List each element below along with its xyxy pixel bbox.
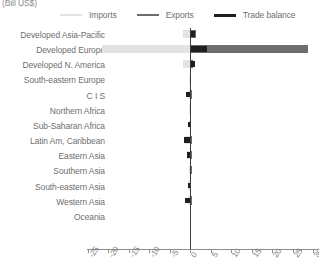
chart-row: South-eastern Europe (0, 73, 319, 88)
x-tick-label: 0 (189, 251, 199, 260)
chart-row: Southern Asia (0, 164, 319, 179)
category-label: Developed Asia-Pacific (0, 28, 105, 43)
legend-item-trade-balance[interactable]: Trade balance (214, 10, 296, 20)
chart-row: Northern Africa (0, 104, 319, 119)
bar-trade-balance (190, 46, 207, 52)
x-tick-label: -10 (148, 245, 162, 259)
category-label: South-eastern Europe (0, 73, 105, 88)
legend-swatch-trade-balance (214, 14, 236, 17)
trade-balance-chart: (Bill US$) Imports Exports Trade balance… (0, 0, 319, 276)
category-label: Latin Am, Caribbean (0, 134, 105, 149)
chart-row: Latin Am, Caribbean (0, 134, 319, 149)
legend-item-imports[interactable]: Imports (60, 10, 117, 20)
bar-imports (183, 30, 190, 39)
bar-exports (190, 45, 308, 54)
category-label: South-eastern Asia (0, 180, 105, 195)
legend-label-trade-balance: Trade balance (243, 10, 296, 20)
x-tick-label: -15 (128, 245, 142, 259)
category-label: Western Asia (0, 195, 105, 210)
chart-row: Developed Asia-Pacific (0, 28, 319, 43)
chart-row: Oceania (0, 210, 319, 225)
legend-swatch-imports (60, 14, 82, 16)
chart-row: Developed N. America (0, 58, 319, 73)
chart-legend: Imports Exports Trade balance (60, 9, 296, 21)
x-tick-label: -25 (87, 245, 101, 259)
category-label: Oceania (0, 210, 105, 225)
legend-swatch-exports (137, 14, 159, 16)
bar-imports (102, 45, 190, 54)
legend-label-imports: Imports (89, 10, 117, 20)
category-label: Sub-Saharan Africa (0, 119, 105, 134)
zero-axis-line (190, 28, 191, 250)
x-tick-label: 5 (210, 251, 220, 260)
chart-row: Eastern Asia (0, 149, 319, 164)
plot-area: Developed Asia-PacificDeveloped EuropeDe… (0, 28, 319, 240)
legend-item-exports[interactable]: Exports (137, 10, 194, 20)
category-label: Northern Africa (0, 104, 105, 119)
x-axis-line (87, 249, 319, 250)
chart-row: C I S (0, 89, 319, 104)
x-tick-label: -5 (169, 248, 180, 259)
category-label: C I S (0, 89, 105, 104)
chart-row: Sub-Saharan Africa (0, 119, 319, 134)
category-label: Developed Europe (0, 43, 105, 58)
legend-label-exports: Exports (166, 10, 194, 20)
category-label: Eastern Asia (0, 149, 105, 164)
category-label: Developed N. America (0, 58, 105, 73)
chart-row: Western Asia (0, 195, 319, 210)
x-tick-label: -20 (107, 245, 121, 259)
units-label: (Bill US$) (2, 0, 37, 8)
bar-imports (183, 60, 190, 69)
category-label: Southern Asia (0, 164, 105, 179)
chart-row: South-eastern Asia (0, 180, 319, 195)
chart-row: Developed Europe (0, 43, 319, 58)
